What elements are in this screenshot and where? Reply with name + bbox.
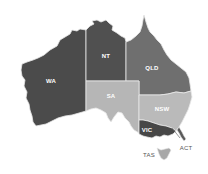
- australia-map: WA NT QLD SA NSW VIC TAS ACT: [0, 0, 208, 174]
- label-nt: NT: [102, 53, 111, 59]
- region-sa[interactable]: [86, 81, 139, 133]
- region-tas[interactable]: [157, 148, 171, 160]
- label-tas: TAS: [143, 152, 155, 158]
- label-act: ACT: [180, 145, 193, 151]
- label-vic: VIC: [142, 127, 153, 133]
- region-nt[interactable]: [86, 20, 126, 81]
- label-sa: SA: [107, 93, 116, 99]
- label-wa: WA: [46, 78, 57, 84]
- label-qld: QLD: [145, 65, 159, 71]
- label-nsw: NSW: [155, 106, 170, 112]
- region-act[interactable]: [177, 127, 186, 141]
